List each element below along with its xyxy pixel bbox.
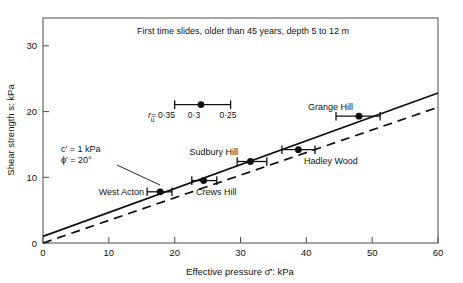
point-label-sudbury-hill: Sudbury Hill — [189, 147, 238, 157]
y-tick-label: 30 — [26, 40, 37, 51]
chart-subtitle: First time slides, older than 45 years, … — [137, 26, 349, 36]
figure-container: 0 10 20 30 40 50 60 0 10 20 30 Effective… — [0, 0, 463, 283]
x-tick-labels: 0 10 20 30 40 50 60 — [40, 247, 443, 258]
chart-svg: 0 10 20 30 40 50 60 0 10 20 30 Effective… — [0, 0, 463, 283]
x-tick-label: 10 — [104, 247, 115, 258]
data-marker — [200, 177, 207, 184]
data-marker — [247, 158, 254, 165]
x-tick-label: 20 — [169, 247, 180, 258]
x-tick-label: 50 — [367, 247, 378, 258]
legend-marker — [198, 101, 205, 108]
legend-value-right: 0·25 — [219, 110, 236, 120]
y-tick-label: 10 — [26, 172, 37, 183]
point-label-grange-hill: Grange Hill — [308, 102, 353, 112]
x-tick-label: 0 — [40, 247, 45, 258]
data-marker — [295, 146, 302, 153]
data-marker — [356, 113, 363, 120]
data-marker — [157, 188, 164, 195]
x-tick-label: 30 — [235, 247, 246, 258]
legend-value-mid: 0·3 — [188, 110, 201, 120]
x-tick-label: 40 — [301, 247, 312, 258]
legend-equals-sign: = — [151, 110, 156, 120]
x-tick-label: 60 — [433, 247, 444, 258]
legend-value-left: 0·35 — [158, 110, 175, 120]
axes-frame — [43, 18, 438, 243]
y-tick-label: 0 — [32, 238, 37, 249]
point-label-west-acton: West Acton — [99, 187, 144, 197]
y-tick-labels: 0 10 20 30 — [26, 40, 37, 248]
phi-prime-label: ϕ′ = 20° — [61, 155, 92, 165]
point-label-hadley-wood: Hadley Wood — [304, 156, 358, 166]
y-axis-title: Shear strength s: kPa — [5, 84, 16, 176]
y-tick-label: 20 — [26, 106, 37, 117]
point-label-crews-hill: Crews Hill — [196, 187, 237, 197]
x-axis-title: Effective pressure σ̄': kPa — [186, 266, 295, 277]
c-prime-label: c′ = 1 kPa — [61, 144, 100, 154]
